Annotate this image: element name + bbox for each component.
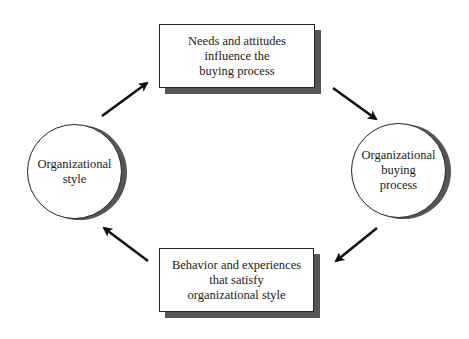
organizational-buying-process-circle: Organizational buying process (351, 123, 446, 218)
behavior-experiences-label: Behavior and experiences that satisfy or… (172, 258, 301, 303)
cycle-diagram: Needs and attitudes influence the buying… (0, 0, 469, 339)
needs-attitudes-label: Needs and attitudes influence the buying… (188, 34, 286, 79)
arrow-up-right-icon (102, 83, 147, 116)
organizational-style-label: Organizational style (37, 157, 111, 187)
arrow-down-right-icon (333, 88, 376, 119)
needs-attitudes-box: Needs and attitudes influence the buying… (159, 24, 315, 88)
organizational-buying-process-label: Organizational buying process (361, 148, 435, 193)
organizational-style-circle: Organizational style (27, 124, 122, 219)
arrow-down-left-icon (336, 228, 377, 261)
arrow-up-left-icon (104, 228, 148, 261)
behavior-experiences-box: Behavior and experiences that satisfy or… (159, 248, 314, 312)
